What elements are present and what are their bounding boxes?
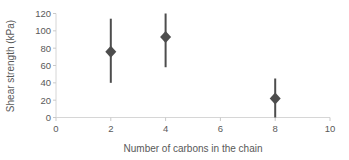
y-tick-label: 60 [40,60,51,71]
y-axis-title: Shear strength (kPa) [5,20,16,112]
x-tick-label: 2 [108,123,113,134]
shear-strength-scatter-chart: 0204060801001200246810 Shear strength (k… [0,0,349,160]
y-tick-label: 80 [40,43,51,54]
chart-canvas: 0204060801001200246810 Shear strength (k… [0,0,349,160]
x-tick-label: 6 [218,123,223,134]
y-tick-label: 40 [40,77,51,88]
chart-axes: 0204060801001200246810 [35,8,335,134]
data-point-diamond [105,46,116,58]
y-tick-label: 20 [40,95,51,106]
y-tick-label: 100 [35,25,51,36]
y-tick-label: 0 [46,112,51,123]
data-point-diamond [160,31,171,43]
scatter-series [105,14,280,118]
x-tick-label: 8 [273,123,278,134]
data-point-diamond [270,92,281,104]
x-tick-label: 4 [163,123,168,134]
x-tick-label: 10 [325,123,336,134]
x-tick-label: 0 [53,123,58,134]
y-tick-label: 120 [35,8,51,19]
x-axis-title: Number of carbons in the chain [124,143,263,154]
